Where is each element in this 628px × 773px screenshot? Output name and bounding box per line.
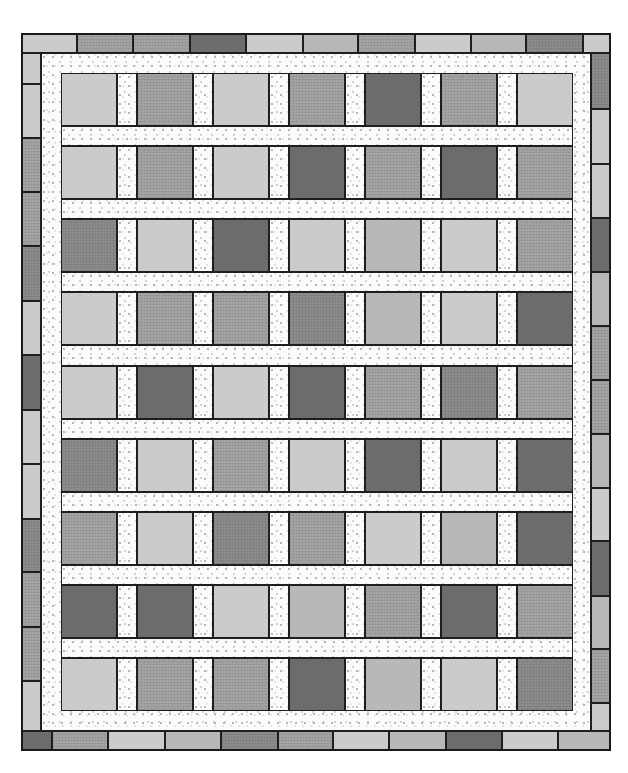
border-piece-bottom [446, 731, 502, 751]
quilt-block [517, 439, 573, 492]
border-piece-left [21, 246, 41, 301]
vertical-sash [193, 366, 213, 419]
quilt-block [517, 658, 573, 711]
horizontal-sash [61, 492, 573, 512]
vertical-sash [497, 146, 517, 199]
quilt-block [365, 658, 421, 711]
quilt-block [517, 146, 573, 199]
border-piece-bottom [221, 731, 278, 751]
quilt-block [365, 292, 421, 345]
border-piece-top [190, 33, 246, 53]
quilt-block [441, 219, 497, 272]
quilt-block [61, 585, 117, 638]
border-piece-left [21, 627, 41, 681]
border-piece-bottom [108, 731, 165, 751]
vertical-sash [345, 585, 365, 638]
border-piece-left [21, 355, 41, 410]
border-piece-bottom [52, 731, 108, 751]
quilt-block [365, 146, 421, 199]
vertical-sash [421, 658, 441, 711]
horizontal-sash [61, 126, 573, 146]
vertical-sash [497, 73, 517, 126]
quilt-block [137, 366, 193, 419]
border-piece-right [591, 649, 611, 703]
vertical-sash [421, 439, 441, 492]
vertical-sash [269, 292, 289, 345]
vertical-sash [193, 73, 213, 126]
vertical-sash [193, 512, 213, 565]
quilt-block [137, 512, 193, 565]
quilt-block [517, 512, 573, 565]
border-piece-top [415, 33, 471, 53]
quilt-block [61, 658, 117, 711]
quilt-block [61, 73, 117, 126]
vertical-sash [345, 146, 365, 199]
border-piece-right [591, 109, 611, 164]
border-piece-left [21, 84, 41, 138]
quilt-block [441, 585, 497, 638]
vertical-sash [345, 219, 365, 272]
border-piece-left [21, 138, 41, 192]
horizontal-sash [61, 199, 573, 219]
vertical-sash [497, 585, 517, 638]
quilt-block [289, 366, 345, 419]
border-piece-right [591, 541, 611, 596]
border-piece-bottom [165, 731, 221, 751]
quilt-block [289, 512, 345, 565]
quilt-block [213, 439, 269, 492]
vertical-sash [497, 292, 517, 345]
quilt-block [61, 512, 117, 565]
quilt-block [289, 146, 345, 199]
border-piece-left [21, 572, 41, 627]
quilt-block [441, 658, 497, 711]
quilt-block [137, 658, 193, 711]
border-piece-bottom [21, 731, 52, 751]
vertical-sash [117, 512, 137, 565]
vertical-sash [345, 292, 365, 345]
quilt-block [61, 439, 117, 492]
border-piece-left [21, 410, 41, 464]
quilt-block [213, 146, 269, 199]
vertical-sash [193, 219, 213, 272]
quilt-diagram [0, 0, 628, 773]
horizontal-sash [61, 419, 573, 439]
vertical-sash [117, 366, 137, 419]
vertical-sash [497, 219, 517, 272]
vertical-sash [345, 73, 365, 126]
vertical-sash [421, 512, 441, 565]
vertical-sash [497, 439, 517, 492]
horizontal-sash [61, 638, 573, 658]
quilt-block [365, 585, 421, 638]
horizontal-sash [61, 345, 573, 366]
quilt-block [517, 219, 573, 272]
border-piece-left [21, 192, 41, 246]
vertical-sash [269, 585, 289, 638]
vertical-sash [421, 292, 441, 345]
vertical-sash [497, 512, 517, 565]
vertical-sash [421, 146, 441, 199]
border-piece-bottom [389, 731, 446, 751]
vertical-sash [117, 73, 137, 126]
border-piece-right [591, 326, 611, 380]
quilt-block [517, 585, 573, 638]
vertical-sash [269, 366, 289, 419]
border-piece-top [471, 33, 526, 53]
quilt-block [61, 366, 117, 419]
quilt-block [441, 366, 497, 419]
vertical-sash [117, 219, 137, 272]
border-piece-top [583, 33, 611, 53]
quilt-block [441, 73, 497, 126]
vertical-sash [117, 146, 137, 199]
vertical-sash [421, 73, 441, 126]
vertical-sash [117, 292, 137, 345]
quilt-block [213, 366, 269, 419]
vertical-sash [345, 512, 365, 565]
quilt-block [213, 585, 269, 638]
quilt-block [289, 439, 345, 492]
quilt-block [365, 439, 421, 492]
vertical-sash [345, 658, 365, 711]
vertical-sash [421, 219, 441, 272]
border-piece-left [21, 519, 41, 572]
border-piece-left [21, 301, 41, 355]
border-piece-top [303, 33, 358, 53]
